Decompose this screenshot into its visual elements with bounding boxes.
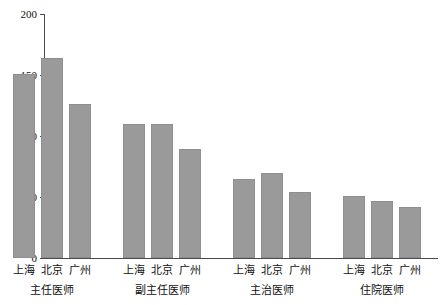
bar xyxy=(123,124,145,258)
x-axis-labels: 上海北京广州主任医师上海北京广州副主任医师上海北京广州主治医师上海北京广州住院医… xyxy=(44,261,438,305)
bar xyxy=(69,104,91,258)
x-axis-group-label: 副主任医师 xyxy=(123,281,201,297)
bar xyxy=(289,192,311,258)
bar xyxy=(41,58,63,258)
x-axis-line xyxy=(44,258,438,259)
bar xyxy=(261,173,283,258)
bar xyxy=(179,149,201,258)
y-tick-mark xyxy=(40,14,44,15)
x-axis-city-label: 广州 xyxy=(283,261,317,277)
bar xyxy=(343,196,365,258)
x-axis-group-label: 主任医师 xyxy=(13,281,91,297)
bar xyxy=(371,201,393,258)
y-tick-label: 200 xyxy=(21,8,38,20)
plot-area: 050100150200 xyxy=(44,14,438,258)
bar xyxy=(233,179,255,258)
x-axis-city-label: 广州 xyxy=(63,261,97,277)
x-axis-city-label: 广州 xyxy=(173,261,207,277)
x-axis-group-label: 住院医师 xyxy=(343,281,421,297)
x-axis-group-label: 主治医师 xyxy=(233,281,311,297)
bar xyxy=(13,74,35,258)
y-tick-mark xyxy=(40,258,44,259)
bar-chart: 电话咨询价格（元） 050100150200 上海北京广州主任医师上海北京广州副… xyxy=(0,0,443,305)
bar xyxy=(399,207,421,258)
bar xyxy=(151,124,173,258)
x-axis-city-label: 广州 xyxy=(393,261,427,277)
